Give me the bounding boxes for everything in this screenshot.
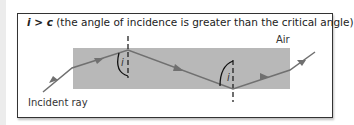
air-label: Air (276, 34, 290, 45)
angle-label-top: i (121, 57, 124, 68)
glass-block (73, 48, 290, 89)
arrow-icon (297, 60, 306, 66)
angle-label-bottom: i (227, 72, 230, 83)
incident-ray-label: Incident ray (28, 97, 88, 108)
arrow-icon (49, 76, 58, 83)
